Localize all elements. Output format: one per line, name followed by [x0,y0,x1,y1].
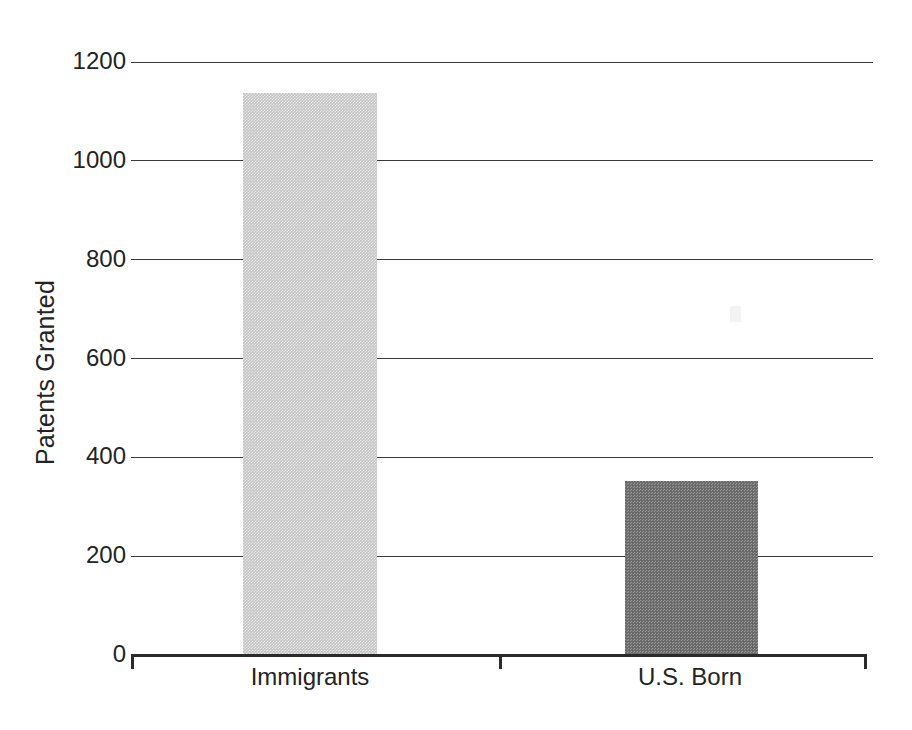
bar-immigrants [243,93,377,655]
bar-us-born [625,481,758,655]
plot-area [0,0,912,730]
x-axis-tick-center [499,654,502,669]
x-category-label-immigrants: Immigrants [190,662,430,692]
x-axis-tick-left [131,654,134,669]
x-axis-tick-right [864,654,867,669]
scan-artifact [730,306,741,322]
bar-chart: Patents Granted 120010008006004002000 Im… [0,0,912,730]
x-category-label-us-born: U.S. Born [570,662,810,692]
